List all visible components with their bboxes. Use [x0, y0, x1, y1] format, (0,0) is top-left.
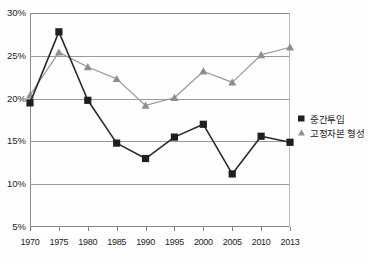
x-tick-mark [146, 227, 147, 231]
x-tick-label: 1970 [21, 237, 40, 247]
line-chart: 5%10%15%20%25%30% 1970197519801985199019… [0, 0, 368, 264]
gridline [31, 56, 289, 57]
gridline [31, 141, 289, 142]
chart-legend: 중간투입 고정자본 형성 [296, 112, 368, 140]
x-tick-mark [290, 227, 291, 231]
y-tick-label: 20% [0, 93, 26, 104]
gridline [31, 99, 289, 100]
x-tick-label: 1975 [49, 237, 68, 247]
legend-item-series-one: 중간투입 [296, 112, 368, 125]
y-tick-label: 25% [0, 50, 26, 61]
x-tick-label: 1995 [165, 237, 184, 247]
legend-label-series-two: 고정자본 형성 [310, 126, 365, 140]
x-tick-label: 2013 [281, 237, 300, 247]
x-tick-mark [174, 227, 175, 231]
x-tick-label: 2010 [252, 237, 271, 247]
x-tick-mark [88, 227, 89, 231]
x-tick-mark [59, 227, 60, 231]
x-tick-label: 1990 [136, 237, 155, 247]
y-tick-label: 10% [0, 178, 26, 189]
plot-area [30, 13, 290, 227]
x-tick-label: 2000 [194, 237, 213, 247]
gridline [31, 184, 289, 185]
y-tick-label: 30% [0, 7, 26, 18]
x-tick-mark [30, 227, 31, 231]
x-tick-label: 2005 [223, 237, 242, 247]
triangle-marker-icon [296, 127, 307, 138]
x-tick-mark [203, 227, 204, 231]
x-tick-mark [261, 227, 262, 231]
y-tick-label: 5% [0, 221, 26, 232]
legend-label-series-one: 중간투입 [310, 112, 345, 126]
x-tick-label: 1980 [78, 237, 97, 247]
square-marker-icon [296, 113, 307, 124]
legend-item-series-two: 고정자본 형성 [296, 126, 368, 139]
x-tick-mark [117, 227, 118, 231]
x-tick-mark [232, 227, 233, 231]
x-tick-label: 1985 [107, 237, 126, 247]
y-tick-label: 15% [0, 135, 26, 146]
